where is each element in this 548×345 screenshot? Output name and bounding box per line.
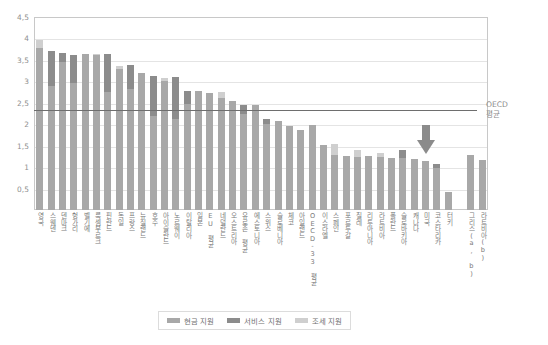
bar-segment-service (104, 54, 111, 91)
bar-segment-cash (365, 156, 372, 210)
bar-column (59, 53, 66, 210)
x-axis-label: 이탈리아 (184, 212, 191, 238)
x-axis-label: 폴란드 (388, 212, 395, 232)
arrow-marker-icon (417, 125, 435, 155)
bar-segment-cash (399, 158, 406, 210)
bar-column (331, 144, 338, 210)
bar-column (82, 54, 89, 210)
bar-segment-service (263, 119, 270, 124)
bar-column (286, 126, 293, 210)
x-axis-label: OECD-33 평균 (309, 212, 316, 286)
y-axis-tick: 1 (24, 163, 29, 172)
bar-segment-service (127, 65, 134, 89)
bar-column (365, 156, 372, 210)
bar-column (48, 51, 55, 210)
bar-segment-service (184, 91, 191, 104)
bar-segment-cash (161, 81, 168, 210)
bar-segment-service (48, 51, 55, 85)
bar-column (127, 65, 134, 210)
bar-segment-cash (286, 126, 293, 210)
legend-swatch (167, 318, 180, 323)
legend-swatch (295, 318, 308, 323)
x-axis-label: 리투아니아 (365, 212, 372, 245)
bar-segment-tax (161, 78, 168, 81)
bar-column (275, 121, 282, 210)
legend-label: 조세 지원 (312, 315, 342, 326)
x-axis-label: 체코 (286, 212, 293, 225)
chart-figure: 0,511,522,533,544,5 OECD 평균 영국스웨덴덴마크헝가리벨… (0, 0, 548, 345)
bar-column (172, 77, 179, 210)
x-axis-label: 헝가리 (70, 212, 77, 232)
bar-segment-cash (36, 48, 43, 210)
bar-segment-cash (388, 158, 395, 210)
bar-column (252, 105, 259, 210)
bar-segment-tax (377, 153, 384, 158)
x-axis-label: 코스타리카 (433, 212, 440, 245)
x-axis-label: 일본 (195, 212, 202, 225)
bar-segment-service (399, 150, 406, 158)
bar-column (467, 155, 474, 210)
bar-column (70, 55, 77, 210)
legend-swatch (227, 318, 240, 323)
oecd-label-line2: 평균 (486, 110, 546, 120)
x-axis-label: 뉴질랜드 (138, 212, 145, 238)
bar-segment-cash (275, 121, 282, 210)
legend-label: 서비스 지원 (244, 315, 281, 326)
bar-column (240, 105, 247, 210)
bar-column (433, 164, 440, 210)
bar-segment-cash (377, 157, 384, 210)
bar-segment-cash (263, 124, 270, 210)
bar-segment-cash (422, 161, 429, 210)
bar-column (411, 159, 418, 210)
y-axis-tick: 0,5 (17, 184, 29, 193)
oecd-average-line (34, 110, 477, 111)
bar-segment-service (59, 53, 66, 62)
x-axis-label: 영국 (36, 212, 43, 225)
bar-column (116, 66, 123, 210)
bar-segment-cash (150, 116, 157, 210)
x-axis-label: 프랑스 (127, 212, 134, 232)
bar-segment-cash (240, 114, 247, 210)
bar-column (161, 78, 168, 210)
x-axis-label: 스위스 (263, 212, 270, 232)
x-axis-label: 노르웨이 (172, 212, 179, 238)
bar-column (150, 76, 157, 210)
bar-segment-cash (354, 157, 361, 210)
x-axis-label: 슬로베니아 (275, 212, 282, 245)
bar-segment-tax (218, 92, 225, 98)
y-axis-tick: 2 (24, 120, 29, 129)
x-axis-labels: 영국스웨덴덴마크헝가리벨기에룩셈부르크핀란드독일프랑스뉴질랜드호주아이슬란드노르… (34, 212, 488, 292)
bar-column (36, 40, 43, 210)
x-axis-label: 독일 (116, 212, 123, 225)
bar-column (138, 73, 145, 210)
bar-segment-cash (82, 54, 89, 210)
bar-segment-cash (229, 101, 236, 210)
bar-segment-cash (59, 62, 66, 210)
legend-item[interactable]: 서비스 지원 (227, 315, 281, 326)
bar-column (354, 150, 361, 210)
x-axis-label: 그리스(a, b) (467, 212, 474, 277)
bar-column (377, 153, 384, 210)
bar-segment-cash (116, 69, 123, 210)
chart-legend: 현금 지원서비스 지원조세 지원 (158, 311, 351, 330)
bar-segment-cash (309, 125, 316, 210)
bar-column (93, 54, 100, 210)
bar-column (388, 158, 395, 210)
legend-item[interactable]: 조세 지원 (295, 315, 342, 326)
bar-segment-cash (331, 155, 338, 210)
bar-segment-service (433, 164, 440, 168)
x-axis-label: 오스트리아 (229, 212, 236, 245)
x-axis-label: 스웨덴 (48, 212, 55, 232)
y-axis-tick: 4 (24, 34, 29, 43)
legend-item[interactable]: 현금 지원 (167, 315, 214, 326)
x-axis-label: 스페인 (331, 212, 338, 232)
bar-segment-cash (320, 145, 327, 210)
x-axis-label: 벨기에 (82, 212, 89, 232)
x-axis-label: 포르투갈 (343, 212, 350, 238)
y-axis-tick: 3,5 (17, 55, 29, 64)
bar-column (229, 101, 236, 210)
x-axis-label: 유로존 평균 (240, 212, 247, 253)
bar-segment-tax (36, 40, 43, 48)
bar-segment-cash (297, 130, 304, 210)
bar-segment-cash (218, 98, 225, 210)
